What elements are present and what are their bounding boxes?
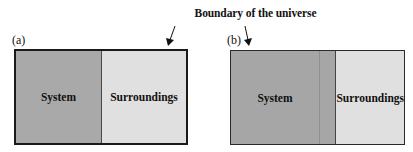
panel-a-surroundings: Surroundings — [102, 51, 186, 143]
panel-a-surroundings-label: Surroundings — [110, 91, 178, 103]
arrow-to-box-b-icon — [244, 26, 252, 46]
panel-a-system-label: System — [41, 91, 76, 103]
panel-a-label: (a) — [12, 33, 25, 48]
arrow-to-box-a-icon — [166, 26, 175, 46]
panel-b-inner-boundary — [319, 51, 320, 144]
panel-a-system: System — [16, 51, 102, 143]
panel-a-box: System Surroundings — [14, 49, 188, 145]
panel-b-system: System — [231, 51, 336, 144]
panel-b-system-label: System — [231, 92, 319, 104]
panel-b-surroundings-label: Surroundings — [336, 92, 404, 104]
panel-b-label: (b) — [227, 33, 241, 48]
panel-b-box: System Surroundings — [230, 50, 405, 145]
panel-b-surroundings: Surroundings — [336, 51, 404, 144]
